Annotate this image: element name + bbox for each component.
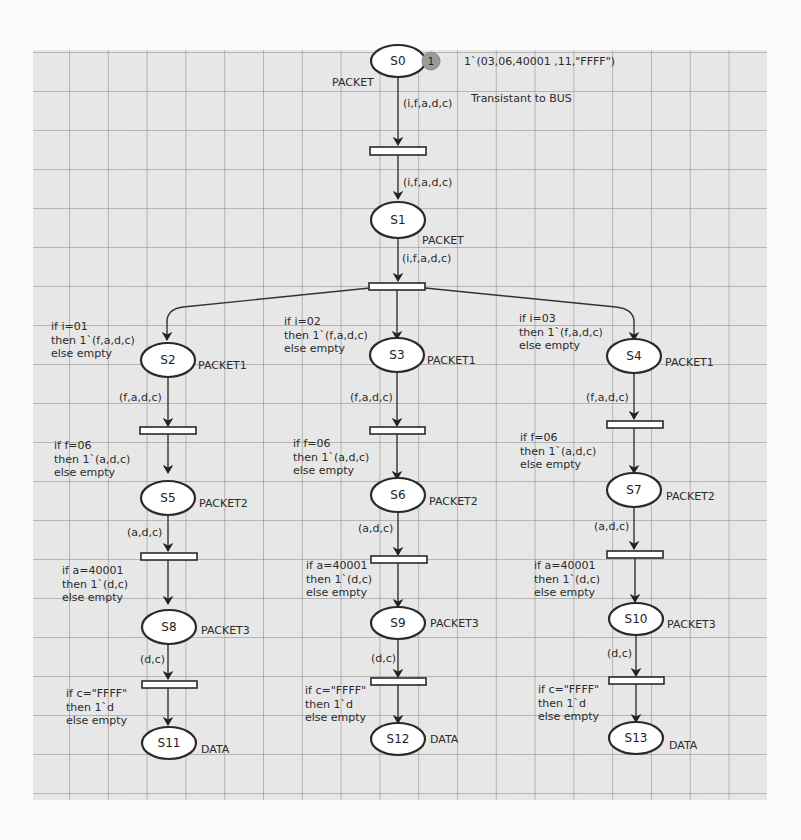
place-s9-label: S9: [390, 616, 405, 630]
guard-to-s5: if f=06 then 1`(a,d,c) else empty: [54, 439, 130, 479]
place-s4[interactable]: S4: [607, 339, 661, 373]
place-s11[interactable]: S11: [142, 727, 196, 759]
transition-t9[interactable]: [371, 678, 426, 685]
inscription-s1-out: (i,f,a,d,c): [402, 252, 451, 265]
place-s11-label: S11: [158, 736, 181, 750]
type-label-s4: PACKET1: [665, 356, 714, 369]
guard-line: if a=40001: [62, 564, 123, 577]
type-label-s8: PACKET3: [201, 624, 250, 637]
guard-line: then 1`(f,a,d,c): [284, 329, 368, 342]
guard-to-s3: if i=02 then 1`(f,a,d,c) else empty: [284, 315, 368, 355]
transition-t2[interactable]: [140, 427, 196, 434]
transition-t1[interactable]: [369, 283, 425, 290]
place-s10[interactable]: S10: [609, 603, 663, 635]
guard-line: if i=02: [284, 315, 321, 328]
guard-to-s13: if c="FFFF" then 1`d else empty: [538, 683, 600, 723]
place-s9[interactable]: S9: [371, 607, 425, 639]
type-label-s1: PACKET: [422, 234, 464, 247]
transition-t10[interactable]: [609, 677, 664, 684]
guard-line: then 1`d: [66, 701, 114, 714]
place-s12-label: S12: [387, 732, 410, 746]
guard-to-s11: if c="FFFF" then 1`d else empty: [66, 687, 128, 727]
type-label-s5: PACKET2: [199, 497, 248, 510]
guard-line: then 1`d: [305, 698, 353, 711]
guard-line: then 1`(f,a,d,c): [519, 326, 603, 339]
guard-line: then 1`(a,d,c): [54, 453, 130, 466]
transition-t5[interactable]: [141, 553, 197, 560]
token-count: 1: [428, 56, 434, 67]
guard-line: then 1`(d,c): [534, 573, 600, 586]
guard-line: if a=40001: [306, 559, 367, 572]
place-s12[interactable]: S12: [371, 723, 425, 755]
guard-to-s6: if f=06 then 1`(a,d,c) else empty: [293, 437, 369, 477]
guard-line: else empty: [305, 711, 367, 724]
initial-marking-value: 1`(03,06,40001 ,11,"FFFF"): [464, 55, 615, 68]
guard-to-s12: if c="FFFF" then 1`d else empty: [305, 684, 367, 724]
place-s2-label: S2: [160, 353, 175, 367]
place-s7[interactable]: S7: [607, 473, 661, 507]
guard-line: else empty: [66, 714, 128, 727]
guard-line: then 1`(a,d,c): [520, 445, 596, 458]
guard-line: then 1`(d,c): [306, 573, 372, 586]
guard-line: then 1`(d,c): [62, 578, 128, 591]
inscription-s8-out: (d,c): [140, 653, 165, 666]
guard-line: if f=06: [520, 431, 558, 444]
inscription-s2-out: (f,a,d,c): [119, 391, 162, 404]
guards: if i=01 then 1`(f,a,d,c) else empty if i…: [51, 312, 603, 727]
guard-to-s8: if a=40001 then 1`(d,c) else empty: [62, 564, 128, 604]
guard-to-s2: if i=01 then 1`(f,a,d,c) else empty: [51, 320, 135, 360]
transition-t6[interactable]: [371, 556, 427, 563]
transition-t3[interactable]: [370, 427, 425, 434]
guard-line: if f=06: [54, 439, 92, 452]
guard-line: else empty: [51, 347, 113, 360]
inscription-s6-out: (a,d,c): [358, 522, 393, 535]
place-s8-label: S8: [161, 620, 176, 634]
transition-t8[interactable]: [142, 681, 197, 688]
place-s6[interactable]: S6: [371, 478, 425, 512]
inscription-s3-out: (f,a,d,c): [350, 391, 393, 404]
guard-line: else empty: [534, 586, 596, 599]
transition-t0[interactable]: [370, 147, 426, 155]
guard-line: if c="FFFF": [66, 687, 127, 700]
guard-to-s7: if f=06 then 1`(a,d,c) else empty: [520, 431, 596, 471]
place-s0[interactable]: S0: [371, 45, 425, 77]
transition-t4[interactable]: [607, 421, 663, 428]
guard-to-s10: if a=40001 then 1`(d,c) else empty: [534, 559, 600, 599]
type-label-s2: PACKET1: [198, 359, 247, 372]
guard-line: if c="FFFF": [305, 684, 366, 697]
guard-to-s9: if a=40001 then 1`(d,c) else empty: [306, 559, 372, 599]
guard-line: if a=40001: [534, 559, 595, 572]
place-s4-label: S4: [626, 349, 641, 363]
guard-line: else empty: [62, 591, 124, 604]
guard-line: if i=03: [519, 312, 556, 325]
inscription-s4-out: (f,a,d,c): [586, 391, 629, 404]
type-label-s7: PACKET2: [666, 490, 715, 503]
place-s5-label: S5: [160, 491, 175, 505]
type-label-s10: PACKET3: [667, 618, 716, 631]
transition-t7[interactable]: [607, 551, 663, 558]
guard-line: if c="FFFF": [538, 683, 599, 696]
place-s13[interactable]: S13: [609, 722, 663, 754]
inscription-s9-out: (d,c): [371, 652, 396, 665]
place-s8[interactable]: S8: [142, 610, 196, 644]
token-count-badge[interactable]: 1: [422, 52, 440, 70]
place-s13-label: S13: [625, 731, 648, 745]
place-s2[interactable]: S2: [141, 343, 195, 377]
guard-line: if f=06: [293, 437, 331, 450]
inscription-s10-out: (d,c): [607, 647, 632, 660]
guard-line: else empty: [54, 466, 116, 479]
guard-line: else empty: [293, 464, 355, 477]
transition-annotation: Transistant to BUS: [470, 92, 572, 105]
page: S0 S1 S2 S3 S4 S5: [0, 0, 801, 840]
guard-line: then 1`d: [538, 697, 586, 710]
place-s5[interactable]: S5: [141, 481, 195, 515]
guard-to-s4: if i=03 then 1`(f,a,d,c) else empty: [519, 312, 603, 352]
guard-line: else empty: [284, 342, 346, 355]
place-s3-label: S3: [389, 348, 404, 362]
place-s1[interactable]: S1: [371, 202, 425, 238]
guard-line: if i=01: [51, 320, 88, 333]
type-label-s11: DATA: [201, 743, 230, 756]
place-type-labels: PACKET PACKET PACKET1 PACKET1 PACKET1 PA…: [198, 76, 716, 756]
guard-line: else empty: [519, 339, 581, 352]
place-s3[interactable]: S3: [370, 338, 424, 372]
